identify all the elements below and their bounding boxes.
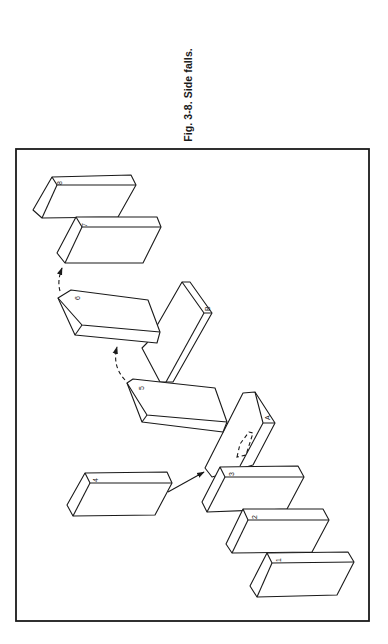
block-5: 5: [127, 379, 227, 432]
block-label: 1: [275, 558, 282, 562]
block-6: 6: [58, 290, 160, 343]
dashed-arrow-icon: [59, 268, 62, 291]
block-1: 1: [250, 552, 354, 597]
block-label: 6: [74, 296, 81, 300]
block-label: 5: [138, 386, 145, 390]
block-label: 7: [81, 223, 88, 227]
block-8: 8: [33, 175, 136, 218]
block-label: 8: [56, 181, 63, 185]
solid-arrow-icon: [168, 472, 204, 492]
block-3: 3: [202, 466, 304, 512]
dashed-arrow-icon: [116, 347, 125, 380]
block-label: B: [204, 306, 211, 311]
block-label: 4: [92, 478, 99, 482]
block-4: 4: [67, 472, 172, 516]
block-label: 2: [251, 515, 258, 519]
block-7: 7: [57, 217, 161, 263]
block-label: 3: [228, 472, 235, 476]
block-label: A: [264, 415, 271, 420]
side-falls-diagram: B 8 7 6 A 5 4: [0, 0, 388, 644]
block-2: 2: [226, 509, 329, 553]
